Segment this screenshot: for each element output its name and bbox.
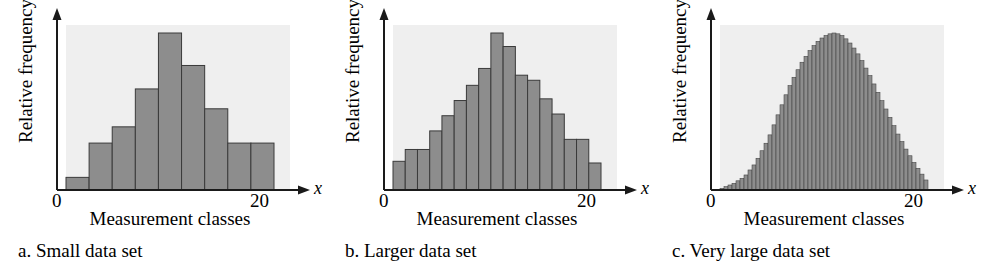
- histogram-bar: [824, 36, 828, 190]
- chart-svg-b: [327, 0, 654, 215]
- plot-area-a: Relative frequency 0 20 x Measurement cl…: [0, 0, 327, 215]
- histogram-bar: [732, 183, 736, 190]
- histogram-bar: [868, 76, 872, 190]
- y-axis-arrowhead-c: [707, 8, 716, 20]
- histogram-bar: [515, 75, 527, 190]
- panel-caption-c: c. Very large data set: [672, 240, 830, 262]
- histogram-bar: [430, 131, 442, 190]
- plot-area-c: Relative frequency 0 20 x Measurement cl…: [654, 0, 981, 215]
- x-axis-arrowhead-a: [298, 186, 310, 195]
- histogram-bar: [564, 139, 576, 190]
- histogram-bar: [852, 48, 856, 190]
- histogram-bar: [892, 126, 896, 190]
- chart-svg-a: [0, 0, 327, 215]
- panel-caption-a: a. Small data set: [18, 240, 143, 262]
- histogram-bar: [89, 143, 112, 190]
- y-axis-arrowhead-b: [380, 8, 389, 20]
- histogram-bar: [764, 143, 768, 190]
- histogram-bar: [577, 139, 589, 190]
- histogram-bar: [920, 174, 924, 190]
- histogram-bar: [205, 109, 228, 190]
- y-axis-label-a: Relative frequency: [15, 0, 37, 159]
- histogram-bar: [796, 70, 800, 190]
- histogram-bar: [860, 61, 864, 190]
- y-axis-arrowhead-a: [53, 8, 62, 20]
- histogram-bar: [740, 178, 744, 190]
- histogram-bar: [528, 80, 540, 190]
- histogram-bar: [503, 47, 515, 190]
- histogram-bar: [736, 181, 740, 190]
- histogram-bar: [888, 117, 892, 190]
- histogram-bar: [491, 33, 503, 190]
- histogram-bar: [158, 33, 181, 190]
- histogram-bar: [884, 109, 888, 190]
- histogram-bar: [393, 161, 405, 190]
- histogram-bar: [228, 143, 251, 190]
- histogram-bar: [816, 41, 820, 190]
- x-axis-variable-label-b: x: [641, 178, 649, 199]
- histogram-bar: [880, 101, 884, 190]
- x-axis-variable-label-c: x: [968, 178, 976, 199]
- histogram-bar: [756, 158, 760, 190]
- histogram-bar: [800, 62, 804, 190]
- histogram-bar: [251, 143, 274, 190]
- histogram-bar: [776, 115, 780, 190]
- x-axis-label-a: Measurement classes: [30, 208, 310, 230]
- histogram-bar: [768, 135, 772, 190]
- histogram-bar: [112, 127, 135, 190]
- histogram-bar: [812, 46, 816, 190]
- histogram-bar: [752, 165, 756, 190]
- histogram-bar: [454, 101, 466, 190]
- histogram-bar: [912, 162, 916, 190]
- histogram-bar: [540, 99, 552, 190]
- histogram-bar: [924, 180, 928, 190]
- histogram-bar: [792, 77, 796, 190]
- histogram-bar: [904, 149, 908, 190]
- histogram-bar: [876, 92, 880, 190]
- histogram-bar: [182, 65, 205, 190]
- histogram-bar: [788, 86, 792, 190]
- histogram-bar: [836, 34, 840, 190]
- histogram-bar: [552, 114, 564, 190]
- panel-very-large-data-set: Relative frequency 0 20 x Measurement cl…: [654, 0, 981, 278]
- histogram-bar: [848, 43, 852, 190]
- histogram-bar: [840, 36, 844, 190]
- x-axis-label-b: Measurement classes: [357, 208, 637, 230]
- histogram-bar: [896, 134, 900, 190]
- x-axis-arrowhead-c: [952, 186, 964, 195]
- y-axis-label-b: Relative frequency: [342, 0, 364, 159]
- histogram-bar: [479, 68, 491, 190]
- x-axis-variable-label-a: x: [314, 178, 322, 199]
- histogram-bar: [772, 125, 776, 190]
- histogram-bar: [908, 156, 912, 190]
- histogram-bar: [760, 151, 764, 190]
- histogram-bar: [828, 34, 832, 190]
- histogram-bar: [405, 149, 417, 190]
- x-axis-label-c: Measurement classes: [684, 208, 964, 230]
- histogram-bar: [466, 85, 478, 190]
- histogram-bar: [864, 68, 868, 190]
- histogram-bar: [872, 84, 876, 190]
- histogram-bar: [748, 170, 752, 190]
- histogram-bar: [135, 89, 158, 190]
- histogram-bar: [808, 51, 812, 190]
- histogram-bar: [856, 54, 860, 190]
- histogram-bar: [589, 163, 601, 190]
- histogram-bar: [66, 177, 89, 190]
- chart-svg-c: [654, 0, 981, 215]
- panel-caption-b: b. Larger data set: [345, 240, 477, 262]
- histogram-bar: [442, 116, 454, 190]
- plot-area-b: Relative frequency 0 20 x Measurement cl…: [327, 0, 654, 215]
- histogram-bar: [916, 168, 920, 190]
- histogram-bar: [832, 33, 836, 190]
- x-axis-arrowhead-b: [625, 186, 637, 195]
- histogram-bar: [820, 38, 824, 190]
- histogram-figure: Relative frequency 0 20 x Measurement cl…: [0, 0, 982, 278]
- histogram-bar: [900, 142, 904, 190]
- histogram-bar: [744, 175, 748, 190]
- panel-small-data-set: Relative frequency 0 20 x Measurement cl…: [0, 0, 327, 278]
- histogram-bar: [417, 149, 429, 190]
- histogram-bar: [804, 56, 808, 190]
- panel-larger-data-set: Relative frequency 0 20 x Measurement cl…: [327, 0, 654, 278]
- y-axis-label-c: Relative frequency: [669, 0, 691, 159]
